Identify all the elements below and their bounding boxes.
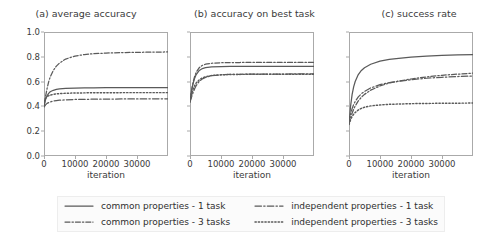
panel-b: (b) accuracy on best task 01000020000300… <box>172 0 337 190</box>
panel-a-plot-area: 0.00.20.40.60.81.00100002000030000 <box>44 32 168 156</box>
legend-line-dashdot-icon <box>64 217 94 227</box>
series-line <box>190 62 314 101</box>
legend-entry-independent-3-tasks: independent properties - 3 tasks <box>254 216 438 228</box>
series-line <box>190 74 314 102</box>
legend-column-right: independent properties - 1 task independ… <box>254 200 438 228</box>
y-tick-label: 0.6 <box>26 77 40 87</box>
x-tick-label: 20000 <box>92 159 119 169</box>
x-tick-label: 10000 <box>61 159 88 169</box>
x-tick-label: 30000 <box>428 159 455 169</box>
panel-a-title: (a) average accuracy <box>0 8 172 19</box>
panel-a-lines <box>44 32 168 156</box>
series-line <box>190 74 314 102</box>
series-line <box>349 103 473 124</box>
legend-entry-common-1-task: common properties - 1 task <box>64 200 254 212</box>
legend-column-left: common properties - 1 task common proper… <box>64 200 254 228</box>
panel-c-lines <box>349 32 473 156</box>
y-tick-label: 1.0 <box>26 27 40 37</box>
series-line <box>349 76 473 123</box>
panel-b-xlabel: iteration <box>190 170 314 180</box>
x-tick-label: 30000 <box>269 159 296 169</box>
x-tick-label: 10000 <box>207 159 234 169</box>
panel-b-plot-area: 0100002000030000 <box>190 32 314 156</box>
panel-a-xlabel: iteration <box>44 170 168 180</box>
panel-a: (a) average accuracy 0.00.20.40.60.81.00… <box>0 0 172 190</box>
series-line <box>349 73 473 124</box>
panel-c: (c) success rate 0100002000030000 iterat… <box>337 0 501 190</box>
x-tick-label: 10000 <box>366 159 393 169</box>
legend-entry-common-3-tasks: common properties - 3 tasks <box>64 216 254 228</box>
legend-label: independent properties - 1 task <box>291 201 433 211</box>
series-line <box>44 88 168 107</box>
x-tick-label: 0 <box>187 159 192 169</box>
x-tick-label: 20000 <box>397 159 424 169</box>
panel-c-plot-area: 0100002000030000 <box>349 32 473 156</box>
x-tick-label: 0 <box>41 159 46 169</box>
y-tick-label: 0.0 <box>26 151 40 161</box>
legend-label: common properties - 1 task <box>101 201 226 211</box>
y-tick-label: 0.4 <box>26 101 40 111</box>
legend-line-solid-icon <box>64 201 94 211</box>
series-line <box>190 66 314 101</box>
legend-line-dashdot-long-icon <box>254 201 284 211</box>
figure-container: (a) average accuracy 0.00.20.40.60.81.00… <box>0 0 501 237</box>
legend: common properties - 1 task common proper… <box>57 196 445 232</box>
x-tick-label: 0 <box>346 159 351 169</box>
legend-entry-independent-1-task: independent properties - 1 task <box>254 200 438 212</box>
panel-c-title: (c) success rate <box>337 8 501 19</box>
panel-c-xlabel: iteration <box>349 170 473 180</box>
legend-label: independent properties - 3 tasks <box>291 217 438 227</box>
x-tick-label: 30000 <box>123 159 150 169</box>
series-line <box>44 99 168 107</box>
panel-b-title: (b) accuracy on best task <box>172 8 337 19</box>
series-line <box>44 52 168 106</box>
y-tick-label: 0.2 <box>26 126 40 136</box>
y-tick-label: 0.8 <box>26 52 40 62</box>
panel-b-lines <box>190 32 314 156</box>
x-tick-label: 20000 <box>238 159 265 169</box>
legend-label: common properties - 3 tasks <box>101 217 230 227</box>
legend-line-dotted-icon <box>254 217 284 227</box>
